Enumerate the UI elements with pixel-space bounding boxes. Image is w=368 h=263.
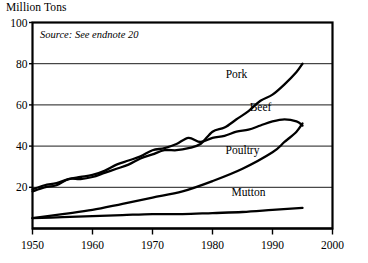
x-tick-label-1990: 1990 (261, 239, 284, 251)
series-line-pork (33, 64, 303, 192)
series-line-beef (33, 119, 303, 189)
y-axis-tick-labels: 20406080100 (10, 17, 32, 194)
y-tick-label-100: 100 (10, 17, 28, 29)
series-label-mutton: Mutton (232, 186, 266, 198)
x-axis-tick-labels: 195019601970198019902000 (21, 239, 344, 251)
y-tick-label-80: 80 (16, 58, 28, 70)
chart-container: Million Tons 20406080100 195019601970198… (0, 0, 368, 263)
y-tick-label-60: 60 (16, 99, 28, 111)
series-line-poultry (33, 123, 303, 218)
chart-plot-area: 20406080100 195019601970198019902000 Por… (0, 0, 368, 263)
x-tick-label-2000: 2000 (321, 239, 344, 251)
y-tick-label-20: 20 (16, 181, 28, 193)
y-tick-label-40: 40 (16, 140, 28, 152)
x-tick-label-1970: 1970 (141, 239, 164, 251)
series-label-poultry: Poultry (226, 144, 260, 157)
x-tick-label-1950: 1950 (21, 239, 44, 251)
plot-frame (33, 23, 333, 229)
series-label-pork: Pork (226, 68, 248, 80)
source-note: Source: See endnote 20 (40, 29, 139, 40)
x-tick-label-1980: 1980 (201, 239, 224, 251)
series-label-beef: Beef (250, 101, 272, 113)
x-tick-label-1960: 1960 (81, 239, 104, 251)
